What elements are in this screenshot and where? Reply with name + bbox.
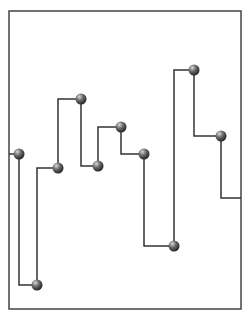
plot-frame (9, 11, 241, 309)
data-point-marker (32, 280, 43, 291)
step-chart (0, 0, 250, 320)
data-point-marker (76, 94, 87, 105)
data-point-marker (14, 149, 25, 160)
data-point-marker (169, 241, 180, 252)
step-line (9, 70, 241, 285)
data-point-marker (116, 122, 127, 133)
data-point-marker (139, 149, 150, 160)
data-point-marker (53, 163, 64, 174)
data-point-marker (93, 161, 104, 172)
data-point-marker (216, 131, 227, 142)
data-point-marker (189, 65, 200, 76)
